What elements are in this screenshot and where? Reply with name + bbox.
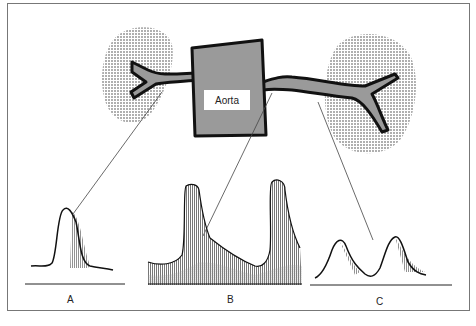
waveform-label-c: C — [376, 296, 383, 307]
waveform-label-a: A — [67, 294, 74, 305]
waveform-a-fill — [70, 212, 90, 268]
waveform-label-b: B — [227, 294, 234, 305]
waveform-c-fill — [340, 237, 425, 275]
aorta-label: Aorta — [204, 90, 250, 110]
aorta — [192, 40, 266, 136]
aorta-renal-diagram — [0, 0, 476, 326]
